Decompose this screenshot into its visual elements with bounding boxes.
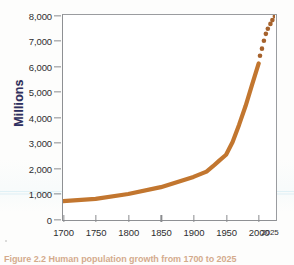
figure-caption: Figure 2.2 Human population growth from …: [4, 254, 294, 264]
y-tick-label: 8,000: [29, 10, 52, 21]
plot-area: [62, 14, 277, 221]
projection-dot: [260, 46, 265, 51]
projection-dot: [258, 54, 263, 59]
projection-dot: [262, 38, 267, 43]
y-axis-labels: 01,0002,0003,0004,0005,0006,0007,0008,00…: [0, 0, 62, 221]
y-tick-mark: [54, 168, 61, 169]
x-tick-mark: [226, 215, 227, 222]
y-tick-label: 4,000: [29, 112, 52, 123]
y-tick-mark: [54, 193, 61, 194]
projection-dot: [266, 26, 271, 31]
y-tick-label: 1,000: [29, 189, 52, 200]
x-tick-mark: [259, 215, 260, 222]
x-tick-mark: [128, 215, 129, 222]
x-tick-label: 1950: [216, 227, 237, 238]
x-tick-mark: [63, 215, 64, 222]
x-tick-label: 1900: [184, 227, 205, 238]
x-tick-mark: [95, 215, 96, 222]
y-tick-mark: [54, 66, 61, 67]
y-tick-mark: [54, 142, 61, 143]
y-tick-label: 3,000: [29, 138, 52, 149]
x-axis-labels: 17001750180018501900195020002025: [0, 223, 294, 245]
projection-dot: [270, 18, 275, 23]
y-tick-mark: [54, 40, 61, 41]
projection-dot: [264, 32, 269, 37]
y-tick-mark: [54, 117, 61, 118]
x-tick-label: 1750: [86, 227, 107, 238]
projected-population-dots: [258, 15, 275, 58]
y-tick-label: 6,000: [29, 61, 52, 72]
x-tick-mark: [193, 215, 194, 222]
observed-population-line: [63, 63, 259, 201]
x-axis-end-label: 2025: [261, 228, 278, 237]
x-tick-label: 1850: [151, 227, 172, 238]
x-tick-label: 1800: [118, 227, 139, 238]
figure-population-growth: Millions 01,0002,0003,0004,0005,0006,000…: [0, 0, 294, 265]
y-tick-label: 2,000: [29, 163, 52, 174]
x-tick-mark: [161, 215, 162, 222]
y-tick-mark: [54, 91, 61, 92]
y-tick-label: 5,000: [29, 87, 52, 98]
y-tick-mark: [54, 15, 61, 16]
x-tick-label: 1700: [53, 227, 74, 238]
population-curve-svg: [63, 15, 275, 219]
y-tick-label: 7,000: [29, 36, 52, 47]
y-tick-mark: [54, 219, 61, 220]
